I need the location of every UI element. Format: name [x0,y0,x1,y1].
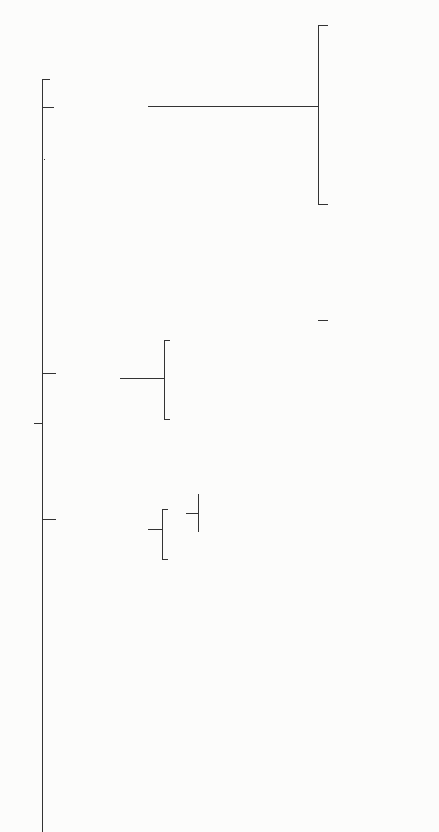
connector-line [164,340,165,420]
connector-line [42,79,50,80]
connector-line [148,106,318,107]
connector-line [34,423,42,424]
connector-line [42,107,54,108]
connector-line [42,519,56,520]
connector-line [198,494,199,532]
connector-line [164,340,170,341]
connector-line [120,378,164,379]
connector-line [44,159,45,160]
connector-line [164,419,170,420]
connector-line [162,559,168,560]
connector-line [318,320,328,321]
connector-line [42,80,43,832]
connector-line [186,513,198,514]
document-page [0,0,439,832]
org-chart [0,0,439,832]
connector-line [318,204,328,205]
connector-line [318,25,328,26]
connector-line [162,510,163,560]
connector-line [42,373,56,374]
connector-line [162,509,168,510]
connector-line [318,25,319,205]
connector-line [148,529,162,530]
